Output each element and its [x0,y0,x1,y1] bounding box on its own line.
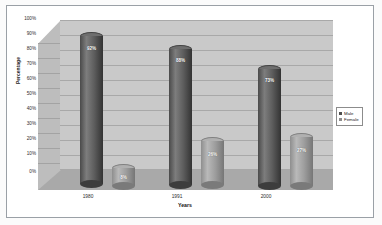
chart-screenshot: 100% 90% 80% 70% 60% 50% 40% 30% 20% 10%… [0,0,382,225]
bar-value-label: 27% [290,148,313,153]
x-tick-2000: 2000 [241,194,291,199]
bar-male-2000[interactable]: 73% [258,65,281,186]
cylinder-bottom [290,182,313,190]
cylinder-body [169,49,192,185]
bar-female-2000[interactable]: 27% [290,133,313,186]
y-tick-60: 60% [27,76,36,81]
bar-female-1991[interactable]: 26% [201,137,224,185]
y-axis-ticks: 100% 90% 80% 70% 60% 50% 40% 30% 20% 10%… [7,16,36,181]
y-tick-80: 80% [27,46,36,51]
chart-frame: 100% 90% 80% 70% 60% 50% 40% 30% 20% 10%… [6,5,374,218]
legend-label-male: Male [344,111,354,116]
bar-value-label: 8% [112,175,135,180]
bar-value-label: 73% [258,78,281,83]
y-tick-10: 10% [27,151,36,156]
legend-item-male[interactable]: Male [339,111,359,116]
cylinder-bottom [169,181,192,189]
cylinder-bottom [201,181,224,189]
cylinder-body [80,36,103,184]
legend-label-female: Female [344,117,359,122]
y-tick-70: 70% [27,61,36,66]
y-tick-0: 0% [29,169,36,174]
y-tick-100: 100% [24,16,36,21]
plot-area: 92% 8% 88% 26% [38,20,333,190]
bar-male-1980[interactable]: 92% [80,32,103,184]
cylinder-body [258,69,281,186]
bar-value-label: 26% [201,152,224,157]
bar-male-1991[interactable]: 88% [169,45,192,185]
cylinder-body [201,141,224,185]
bar-value-label: 92% [80,46,103,51]
bar-value-label: 88% [169,58,192,63]
legend-item-female[interactable]: Female [339,117,359,122]
x-tick-1991: 1991 [152,194,202,199]
legend-swatch-male-icon [339,112,342,115]
y-tick-90: 90% [27,31,36,36]
legend-swatch-female-icon [339,118,342,121]
y-axis-title: Percentage [15,57,21,84]
x-axis-title: Years [1,202,369,208]
cylinder-bottom [80,180,103,188]
y-tick-50: 50% [27,91,36,96]
y-tick-30: 30% [27,121,36,126]
x-tick-1980: 1980 [63,194,113,199]
left-wall [38,20,61,190]
y-tick-40: 40% [27,106,36,111]
cylinder-bottom [258,182,281,190]
cylinder-bottom [112,182,135,190]
bar-female-1980[interactable]: 8% [112,164,135,186]
cylinder-body [290,137,313,186]
gridline [60,20,333,21]
y-tick-20: 20% [27,136,36,141]
legend[interactable]: Male Female [336,107,363,126]
